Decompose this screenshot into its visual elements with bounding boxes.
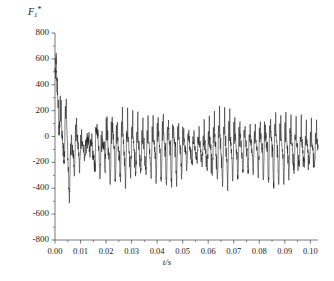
y-tick-label: 600 xyxy=(36,54,50,63)
x-tick-label: 0.10 xyxy=(294,247,326,256)
y-tick-label: 400 xyxy=(36,80,50,89)
y-tick-label: -800 xyxy=(33,235,50,244)
x-axis-label-text: t/s xyxy=(163,257,172,267)
series-line-F1 xyxy=(55,53,318,203)
force-time-chart: F1* 8006004002000-200-400-600-800 0.000.… xyxy=(0,0,334,281)
y-tick-label: 0 xyxy=(45,132,50,141)
y-tick-label: 200 xyxy=(36,106,50,115)
y-axis-label-superscript: * xyxy=(38,5,42,14)
axes-group xyxy=(55,33,318,240)
x-axis-label: t/s xyxy=(0,258,334,267)
y-tick-label: -200 xyxy=(33,157,50,166)
y-axis-label: F1* xyxy=(28,6,42,19)
y-tick-label: 800 xyxy=(36,28,50,37)
plot-canvas xyxy=(0,0,334,281)
y-tick-label: -600 xyxy=(33,209,50,218)
y-tick-label: -400 xyxy=(33,183,50,192)
